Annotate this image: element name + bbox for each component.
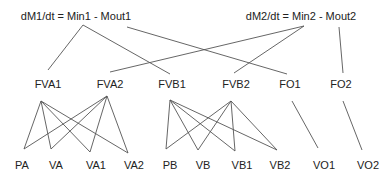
edge-line xyxy=(107,96,128,153)
flow-node-fo2: FO2 xyxy=(330,78,351,90)
variable-node-vo1: VO1 xyxy=(313,159,335,171)
edge-line xyxy=(292,101,318,148)
edge-line xyxy=(166,101,231,149)
edge-line xyxy=(166,100,170,149)
flow-node-fo1: FO1 xyxy=(279,78,300,90)
edge-line xyxy=(41,101,51,149)
edge-line xyxy=(41,101,128,153)
edge-line xyxy=(83,25,170,74)
equation-node-eq1: dM1/dt = Min1 - Mout1 xyxy=(21,10,131,22)
flow-node-fvb1: FVB1 xyxy=(158,78,186,90)
edge-line xyxy=(231,101,277,150)
variable-node-pb: PB xyxy=(163,159,178,171)
edge-line xyxy=(127,27,287,74)
edge-line xyxy=(110,26,304,72)
variable-node-va: VA xyxy=(49,159,63,171)
variable-node-vb: VB xyxy=(196,159,211,171)
flow-node-fva2: FVA2 xyxy=(97,78,124,90)
edge-line xyxy=(41,101,90,152)
edge-line xyxy=(339,27,343,73)
flow-node-fva1: FVA1 xyxy=(35,78,62,90)
edge-line xyxy=(231,101,235,151)
edge-line xyxy=(24,96,107,149)
variable-node-vb1: VB1 xyxy=(232,159,253,171)
edge-line xyxy=(234,26,304,73)
variable-node-vb2: VB2 xyxy=(270,159,291,171)
equation-node-eq2: dM2/dt = Min2 - Mout2 xyxy=(246,10,356,22)
flow-node-fvb2: FVB2 xyxy=(222,78,250,90)
edge-line xyxy=(48,25,83,70)
variable-node-vo2: VO2 xyxy=(357,159,379,171)
edge-line xyxy=(24,101,41,149)
variable-node-va1: VA1 xyxy=(86,159,106,171)
variable-node-va2: VA2 xyxy=(124,159,144,171)
variable-node-pa: PA xyxy=(15,159,29,171)
edge-line xyxy=(343,101,362,150)
